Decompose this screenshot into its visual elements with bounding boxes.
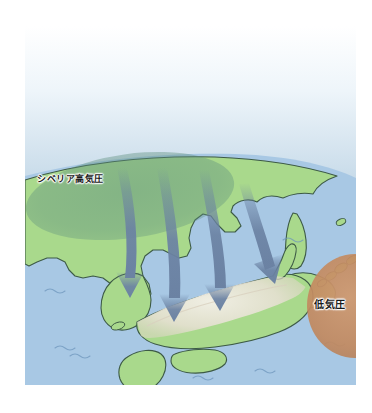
label-siberian-high: シベリア高気圧 <box>37 172 104 185</box>
weather-map-plate <box>25 26 356 385</box>
illustration-canvas: シベリア高気圧 低気圧 <box>0 0 372 413</box>
weather-map-svg <box>25 26 356 385</box>
label-low-pressure: 低気圧 <box>314 296 346 311</box>
